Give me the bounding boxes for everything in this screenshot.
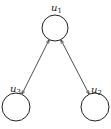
label-u2: u2 (91, 84, 102, 97)
graph-diagram: u1 u3 u2 (0, 0, 111, 129)
edge-u1-u2 (61, 40, 89, 94)
node-u3 (2, 93, 30, 121)
node-u2 (81, 93, 109, 121)
node-u1 (42, 15, 68, 41)
label-u1: u1 (51, 2, 62, 15)
edge-u1-u3 (22, 40, 49, 94)
